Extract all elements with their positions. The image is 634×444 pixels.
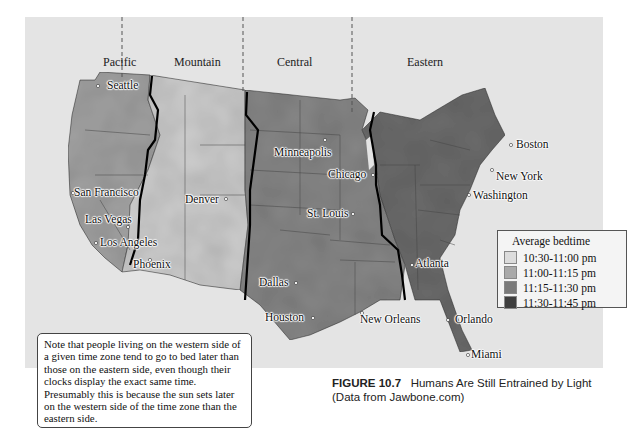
explanatory-note: Note that people living on the western s… <box>37 333 252 428</box>
legend-title: Average bedtime <box>512 235 620 247</box>
city-label-atlanta: Atlanta <box>415 257 449 269</box>
city-label-denver: Denver <box>185 193 219 205</box>
city-label-phoenix: Phoenix <box>133 258 171 270</box>
legend-label: 11:30-11:45 pm <box>523 297 596 309</box>
city-label-san-francisco: San Francisco <box>74 186 139 198</box>
city-label-houston: Houston <box>265 311 304 323</box>
city-label-minneapolis: Minneapolis <box>274 146 332 158</box>
legend-swatch <box>504 296 517 309</box>
legend-item: 11:15-11:30 pm <box>504 280 620 295</box>
zone-label-pacific: Pacific <box>103 55 136 70</box>
legend-item: 11:30-11:45 pm <box>504 295 620 310</box>
legend-swatch <box>504 266 517 279</box>
city-label-miami: Miami <box>471 348 502 360</box>
figure-title: Humans Are Still Entrained by Light <box>411 377 592 389</box>
city-label-washington: Washington <box>473 189 528 201</box>
figure-source: (Data from Jawbone.com) <box>332 390 592 404</box>
legend-label: 11:15-11:30 pm <box>523 282 596 294</box>
city-label-boston: Boston <box>516 138 549 150</box>
legend-swatch <box>504 251 517 264</box>
legend-swatch <box>504 281 517 294</box>
city-label-los-angeles: Los Angeles <box>100 236 157 248</box>
city-label-st-louis: St. Louis <box>307 207 349 219</box>
zone-label-central: Central <box>277 55 312 70</box>
figure-caption: FIGURE 10.7 Humans Are Still Entrained b… <box>332 376 592 404</box>
city-label-chicago: Chicago <box>328 168 366 180</box>
city-label-new-york: New York <box>496 170 543 182</box>
city-label-new-orleans: New Orleans <box>360 313 420 325</box>
bedtime-legend: Average bedtime 10:30-11:00 pm 11:00-11:… <box>497 230 627 308</box>
city-label-seattle: Seattle <box>107 79 138 91</box>
legend-item: 11:00-11:15 pm <box>504 265 620 280</box>
city-label-dallas: Dallas <box>259 276 288 288</box>
legend-item: 10:30-11:00 pm <box>504 250 620 265</box>
legend-label: 11:00-11:15 pm <box>523 267 596 279</box>
zone-label-mountain: Mountain <box>174 55 221 70</box>
city-label-orlando: Orlando <box>455 313 493 325</box>
city-label-las-vegas: Las Vegas <box>85 213 132 225</box>
figure-number: FIGURE 10.7 <box>332 377 401 389</box>
zone-label-eastern: Eastern <box>407 55 443 70</box>
legend-label: 10:30-11:00 pm <box>523 252 596 264</box>
